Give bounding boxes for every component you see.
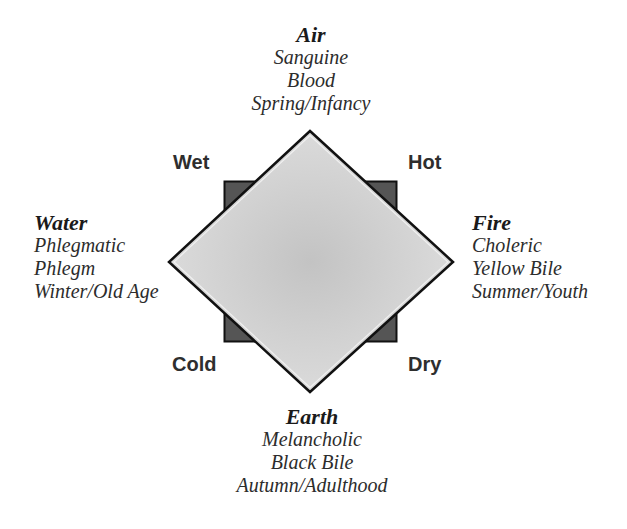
four-humors-diagram: Air Sanguine Blood Spring/Infancy Water … [0, 0, 627, 529]
quality-wet: Wet [173, 152, 209, 172]
element-water: Water Phlegmatic Phlegm Winter/Old Age [34, 211, 159, 303]
humor-air: Blood [287, 69, 335, 92]
element-earth: Earth Melancholic Black Bile Autumn/Adul… [236, 405, 387, 497]
season-age-earth: Autumn/Adulthood [236, 474, 387, 497]
temperament-air: Sanguine [274, 46, 348, 69]
season-age-water: Winter/Old Age [34, 280, 159, 303]
humor-fire: Yellow Bile [472, 257, 562, 280]
quality-hot: Hot [408, 152, 441, 172]
element-name-earth: Earth [286, 405, 339, 428]
humor-water: Phlegm [34, 257, 95, 280]
quality-cold: Cold [172, 354, 216, 374]
temperament-earth: Melancholic [262, 428, 362, 451]
element-air: Air Sanguine Blood Spring/Infancy [252, 23, 371, 115]
element-name-air: Air [296, 23, 325, 46]
quality-dry: Dry [408, 354, 441, 374]
element-fire: Fire Choleric Yellow Bile Summer/Youth [472, 211, 588, 303]
season-age-fire: Summer/Youth [472, 280, 588, 303]
element-name-fire: Fire [472, 211, 511, 234]
temperament-fire: Choleric [472, 234, 542, 257]
element-name-water: Water [34, 211, 87, 234]
season-age-air: Spring/Infancy [252, 92, 371, 115]
temperament-water: Phlegmatic [34, 234, 125, 257]
humor-earth: Black Bile [271, 451, 354, 474]
